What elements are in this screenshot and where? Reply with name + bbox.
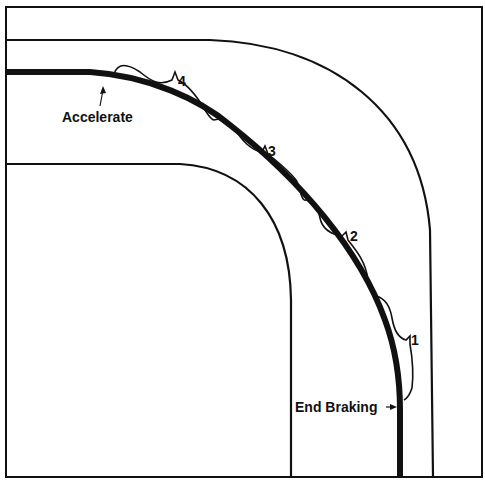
accelerate-arrow-icon <box>100 86 106 106</box>
diagram-frame <box>6 7 482 477</box>
end-braking-arrow-icon <box>386 404 397 410</box>
racing-line <box>6 72 400 477</box>
end-braking-label: End Braking <box>295 400 377 414</box>
segment-braces <box>114 66 413 401</box>
segment-4-label: 4 <box>178 74 186 88</box>
segment-1-label: 1 <box>411 333 419 347</box>
racing-line-diagram <box>0 0 485 480</box>
segment-3-label: 3 <box>268 144 276 158</box>
accelerate-label: Accelerate <box>62 110 133 124</box>
inner-track-edge <box>6 164 291 477</box>
segment-2-label: 2 <box>350 229 358 243</box>
